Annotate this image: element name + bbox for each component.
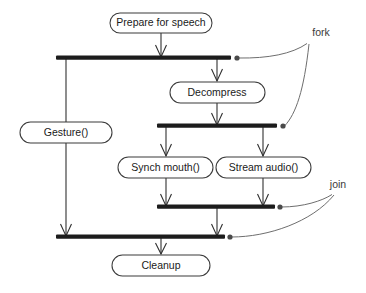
flow-synch-mouth-to-join1 [161, 178, 172, 206]
activity-node-synch-mouth[interactable]: Synch mouth() [118, 157, 213, 178]
join-dot-2 [227, 234, 232, 239]
activity-node-prepare-for-speech[interactable]: Prepare for speech [110, 13, 212, 33]
fork-leader-curve-2 [285, 44, 310, 126]
activity-node-cleanup[interactable]: Cleanup [112, 255, 210, 276]
flow-prepare-to-fork1 [156, 33, 167, 57]
activity-label-stream-audio: Stream audio() [229, 161, 298, 173]
fork-bar-1 [56, 56, 231, 60]
flow-fork2-to-stream-audio [258, 127, 269, 156]
fork-label: fork [312, 26, 330, 38]
activity-node-gesture[interactable]: Gesture() [20, 122, 112, 143]
flow-stream-audio-to-join1 [258, 178, 269, 206]
join-bar-2 [56, 235, 225, 239]
fork-annotation: fork [234, 26, 330, 129]
activity-label-gesture: Gesture() [44, 126, 88, 138]
activity-label-cleanup: Cleanup [141, 259, 180, 271]
flow-fork1-to-decompress [212, 59, 223, 81]
flow-join2-to-cleanup [156, 238, 167, 254]
flow-join1-to-join2 [212, 208, 223, 236]
flow-gesture-to-join2 [61, 143, 72, 236]
activity-label-synch-mouth: Synch mouth() [131, 161, 199, 173]
activity-label-prepare-for-speech: Prepare for speech [116, 16, 205, 28]
activity-node-decompress[interactable]: Decompress [170, 82, 265, 103]
activity-diagram-canvas: Prepare for speech Gesture() Decompress … [0, 0, 366, 293]
activity-node-stream-audio[interactable]: Stream audio() [216, 157, 311, 178]
flow-fork2-to-synch-mouth [161, 127, 172, 156]
join-label: join [329, 178, 347, 190]
join-bar-1 [157, 205, 275, 209]
flow-decompress-to-fork2 [212, 103, 223, 125]
fork-leader-curve-1 [239, 44, 308, 59]
join-dot-1 [277, 204, 282, 209]
activity-label-decompress: Decompress [188, 86, 247, 98]
activity-diagram-svg: Prepare for speech Gesture() Decompress … [0, 0, 366, 293]
fork-bar-2 [157, 124, 277, 128]
fork-dot-1 [234, 55, 239, 60]
fork-dot-2 [280, 123, 285, 128]
